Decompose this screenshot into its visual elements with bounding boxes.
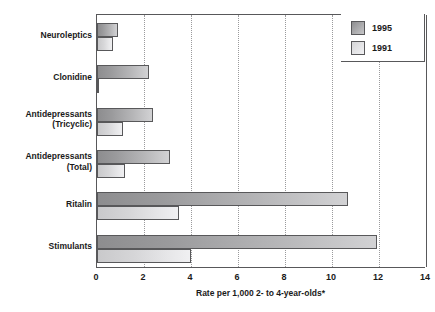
bar-1991 — [97, 122, 123, 136]
bar-1995 — [97, 23, 118, 37]
category-label-line1: Ritalin — [66, 199, 92, 209]
bar-group — [97, 142, 425, 184]
bar-1995 — [97, 108, 153, 122]
bar-1995 — [97, 65, 149, 79]
x-tick-label-0: 0 — [81, 272, 111, 282]
bar-1991 — [97, 164, 125, 178]
bar-1995 — [97, 235, 377, 249]
bar-1995 — [97, 150, 170, 164]
category-label-line1: Clonidine — [53, 72, 92, 82]
x-axis-title: Rate per 1,000 2- to 4-year-olds* — [96, 288, 425, 298]
bar-1991 — [97, 206, 179, 220]
legend-label-1995: 1995 — [372, 23, 392, 33]
axis-right-cap — [426, 15, 427, 267]
bar-group — [97, 184, 425, 226]
category-label-2: Antidepressants(Tricyclic) — [0, 109, 92, 130]
bar-1995 — [97, 192, 348, 206]
legend: 1995 1991 — [341, 14, 425, 62]
bar-1991 — [97, 79, 99, 93]
bar-group — [97, 57, 425, 99]
bar-1991 — [97, 37, 113, 51]
bar-1991 — [97, 249, 191, 263]
category-label-line2: (Tricyclic) — [0, 119, 92, 130]
category-label-line1: Antidepressants — [25, 109, 92, 119]
x-tick-label-12: 12 — [363, 272, 393, 282]
category-label-1: Clonidine — [0, 72, 92, 83]
category-label-line1: Antidepressants — [25, 151, 92, 161]
x-tick-label-4: 4 — [175, 272, 205, 282]
legend-item-1995: 1995 — [351, 21, 392, 35]
x-tick-label-8: 8 — [269, 272, 299, 282]
bar-group — [97, 227, 425, 269]
legend-label-1991: 1991 — [372, 43, 392, 53]
category-label-0: Neuroleptics — [0, 30, 92, 41]
x-tick-label-6: 6 — [222, 272, 252, 282]
category-label-5: Stimulants — [0, 241, 92, 252]
x-axis-ticks: 02468101214 — [0, 272, 427, 286]
category-label-line2: (Total) — [0, 162, 92, 173]
category-label-line1: Neuroleptics — [41, 30, 93, 40]
category-label-4: Ritalin — [0, 199, 92, 210]
bar-group — [97, 100, 425, 142]
legend-swatch-1995-icon — [351, 21, 365, 35]
category-axis-labels: NeurolepticsClonidineAntidepressants(Tri… — [0, 14, 92, 268]
legend-swatch-1991-icon — [351, 41, 365, 55]
category-label-3: Antidepressants(Total) — [0, 151, 92, 172]
x-tick-label-10: 10 — [316, 272, 346, 282]
x-tick-label-14: 14 — [410, 272, 435, 282]
x-tick-label-2: 2 — [128, 272, 158, 282]
category-label-line1: Stimulants — [49, 241, 92, 251]
legend-item-1991: 1991 — [351, 41, 392, 55]
